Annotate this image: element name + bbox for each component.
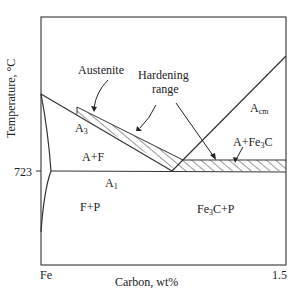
- a-fe3c-region-label: A+Fe3C: [233, 136, 272, 150]
- hardening-arrow-left: [140, 105, 156, 128]
- fe3c-p-region-label: Fe3C+P: [197, 203, 234, 217]
- a3-label: A3: [75, 122, 88, 136]
- x-tick-fe: Fe: [40, 269, 52, 281]
- x-tick-1-5: 1.5: [272, 269, 287, 281]
- a1-label: A1: [105, 177, 118, 191]
- hardening-arrow-right: [176, 103, 214, 157]
- a1-line: [51, 171, 286, 172]
- y-axis-label: Temperature, °C: [4, 59, 19, 138]
- x-axis-label: Carbon, wt%: [115, 276, 178, 288]
- austenite-label: Austenite: [78, 64, 124, 76]
- acm-label: Acm: [250, 102, 268, 116]
- acm-line: [172, 56, 286, 171]
- hardening-label: Hardening: [138, 69, 189, 81]
- range-label: range: [152, 83, 179, 95]
- f-p-region-label: F+P: [80, 201, 100, 213]
- ferrite-solvus-curve: [41, 94, 51, 232]
- a3-line: [41, 94, 172, 171]
- y-tick-723: 723: [14, 166, 32, 178]
- austenite-arrow: [94, 80, 108, 108]
- a-f-region-label: A+F: [82, 151, 104, 163]
